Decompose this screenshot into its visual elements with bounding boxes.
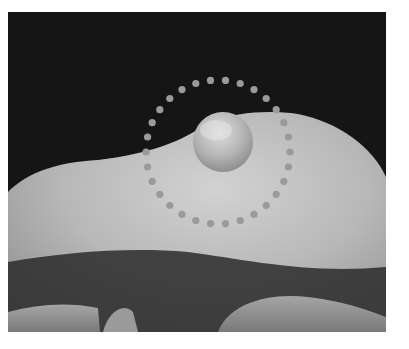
- annotation-dot: [207, 220, 214, 227]
- annotation-dot: [285, 133, 292, 140]
- nodule-highlight: [200, 120, 232, 140]
- annotation-dot: [222, 220, 229, 227]
- annotation-dot: [166, 202, 173, 209]
- annotation-dot: [144, 133, 151, 140]
- annotation-dot: [280, 178, 287, 185]
- annotation-dot: [156, 191, 163, 198]
- annotation-dot: [144, 163, 151, 170]
- annotation-dot: [273, 191, 280, 198]
- annotation-dot: [250, 211, 257, 218]
- annotation-dot: [192, 217, 199, 224]
- annotation-dot: [280, 119, 287, 126]
- annotation-dot: [166, 95, 173, 102]
- annotation-dot: [273, 106, 280, 113]
- annotation-dot: [222, 77, 229, 84]
- annotation-dot: [142, 148, 149, 155]
- annotation-dot: [178, 211, 185, 218]
- annotation-dot: [250, 86, 257, 93]
- annotation-dot: [178, 86, 185, 93]
- annotation-dot: [263, 202, 270, 209]
- annotation-dot: [149, 119, 156, 126]
- nodule: [193, 112, 253, 172]
- annotation-dot: [192, 80, 199, 87]
- annotation-dot: [156, 106, 163, 113]
- annotation-dot: [207, 77, 214, 84]
- annotation-dot: [237, 80, 244, 87]
- annotation-dot: [285, 163, 292, 170]
- clinical-photo: [8, 12, 386, 332]
- photo-svg: [8, 12, 386, 332]
- annotation-dot: [286, 148, 293, 155]
- annotation-dot: [237, 217, 244, 224]
- annotation-dot: [263, 95, 270, 102]
- annotation-dot: [149, 178, 156, 185]
